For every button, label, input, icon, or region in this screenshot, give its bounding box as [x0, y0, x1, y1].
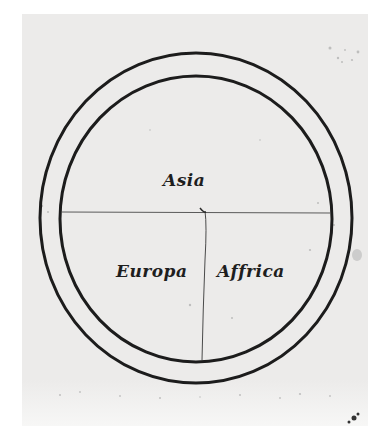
stain-mark — [352, 249, 362, 261]
label-europa: Europa — [116, 261, 188, 281]
ink-smudge — [348, 413, 360, 424]
horizontal-divider-line — [62, 212, 330, 213]
inner-world-circle — [60, 76, 332, 362]
label-affrica: Affrica — [217, 261, 285, 281]
vertical-divider-line — [202, 211, 206, 360]
divider-junction-mark — [200, 208, 206, 212]
outer-ocean-circle — [40, 53, 352, 383]
label-asia: Asia — [163, 170, 205, 190]
t-o-map-drawing — [0, 0, 387, 446]
